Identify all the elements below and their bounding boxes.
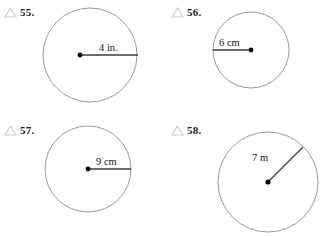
circle-figure-57 — [0, 118, 167, 236]
radius-line — [268, 147, 303, 182]
circle-figure-58 — [167, 118, 334, 236]
radius-label: 6 cm — [219, 37, 240, 48]
circle-figure-56 — [167, 0, 334, 118]
center-point — [265, 179, 270, 184]
worksheet-page: 55. 4 in. 56. 6 cm 57. — [0, 0, 334, 236]
center-point — [249, 48, 254, 53]
center-point — [86, 167, 91, 172]
radius-label: 7 m — [252, 152, 268, 163]
center-point — [78, 53, 83, 58]
radius-label: 9 cm — [96, 156, 117, 167]
radius-label: 4 in. — [99, 42, 118, 53]
circle-figure-55 — [0, 0, 167, 118]
